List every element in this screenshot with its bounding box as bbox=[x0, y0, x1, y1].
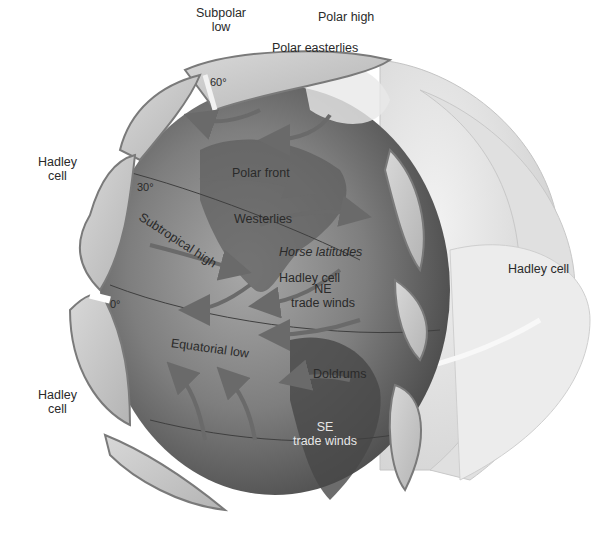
doldrums-label: Doldrums bbox=[313, 367, 367, 381]
polar-front-label: Polar front bbox=[232, 166, 290, 180]
hadley-cell-right-label: Hadley cell bbox=[508, 262, 569, 276]
latitude-30-label: 30° bbox=[137, 180, 154, 194]
hadley-cell-lower-left-label: Hadley cell bbox=[38, 388, 77, 416]
polar-high-label: Polar high bbox=[318, 10, 374, 24]
polar-easterlies-label: Polar easterlies bbox=[272, 41, 358, 55]
latitude-0-label: 0° bbox=[110, 297, 121, 311]
hadley-cell-upper-left-label: Hadley cell bbox=[38, 155, 77, 183]
ne-trade-winds-label: NE trade winds bbox=[291, 282, 355, 310]
latitude-60-label: 60° bbox=[210, 75, 227, 89]
se-trade-winds-label: SE trade winds bbox=[293, 420, 357, 448]
subpolar-low-label: Subpolar low bbox=[196, 6, 246, 34]
westerlies-label: Westerlies bbox=[234, 212, 292, 226]
horse-latitudes-label: Horse latitudes bbox=[279, 245, 362, 259]
circulation-diagram: Subpolar low Polar high 60° Polar easter… bbox=[0, 0, 615, 545]
